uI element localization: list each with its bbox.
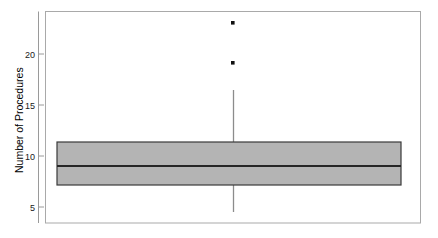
y-tick-label-10: 10 — [25, 152, 35, 162]
y-tick-label-20: 20 — [25, 50, 35, 60]
y-tick-label-5: 5 — [30, 203, 35, 213]
outlier-point — [231, 21, 235, 25]
boxplot-canvas: 20 15 10 5 Number of Procedures — [0, 0, 438, 238]
y-axis-title: Number of Procedures — [13, 67, 25, 173]
boxplot-figure: 20 15 10 5 Number of Procedures — [0, 0, 438, 238]
outlier-point — [231, 61, 235, 65]
box-iqr — [57, 142, 401, 185]
y-tick-label-15: 15 — [25, 101, 35, 111]
